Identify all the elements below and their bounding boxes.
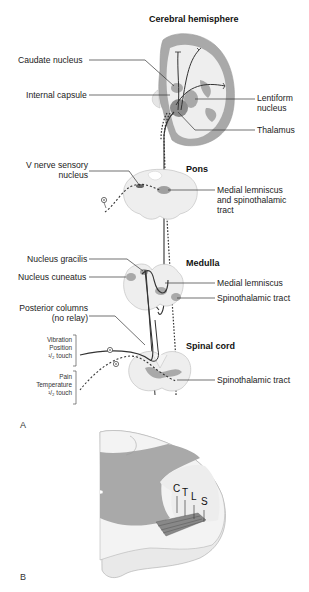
label-medial-lemniscus-and-spinothalamic: Medial lemniscus and spinothalamic tract xyxy=(217,185,286,215)
label-line: nucleus xyxy=(257,103,287,113)
modality-temperature: Temperature xyxy=(36,381,72,388)
label-line: Posterior columns xyxy=(19,303,88,313)
title-cerebral-hemisphere: Cerebral hemisphere xyxy=(149,14,239,24)
label-lentiform-nucleus: Lentiform nucleus xyxy=(257,93,293,113)
panel-label-b: B xyxy=(20,572,26,582)
label-line: nucleus xyxy=(58,170,88,180)
modality-group-dorsal-column: Vibration Position ¹/₂ touch xyxy=(24,336,72,360)
label-spinothalamic-tract-cord: Spinothalamic tract xyxy=(217,375,290,385)
modality-vibration: Vibration xyxy=(47,336,72,343)
segment-label-l: L xyxy=(191,491,197,502)
label-line: Lentiform xyxy=(257,93,293,103)
modality-group-spinothalamic: Pain Temperature ¹/₂ touch xyxy=(14,373,72,397)
panel-label-a: A xyxy=(20,420,26,430)
modality-half-touch: ¹/₂ touch xyxy=(48,389,72,396)
label-line: and spinothalamic xyxy=(217,195,286,205)
modality-position: Position xyxy=(49,344,72,351)
label-v-nerve-sensory-nucleus: V nerve sensory nucleus xyxy=(24,160,88,180)
label-internal-capsule: Internal capsule xyxy=(26,90,87,100)
title-medulla: Medulla xyxy=(186,258,220,268)
label-posterior-columns: Posterior columns (no relay) xyxy=(10,303,88,323)
label-nucleus-cuneatus: Nucleus cuneatus xyxy=(18,272,86,282)
title-spinal-cord: Spinal cord xyxy=(186,341,235,351)
modality-pain: Pain xyxy=(59,373,72,380)
label-caudate-nucleus: Caudate nucleus xyxy=(18,55,83,65)
label-line: V nerve sensory xyxy=(26,160,88,170)
modality-half-touch: ¹/₂ touch xyxy=(48,352,72,359)
label-medial-lemniscus: Medial lemniscus xyxy=(217,278,283,288)
label-thalamus: Thalamus xyxy=(257,125,295,135)
segment-label-c: C xyxy=(173,483,180,494)
label-spinothalamic-tract-medulla: Spinothalamic tract xyxy=(217,293,290,303)
title-pons: Pons xyxy=(186,164,208,174)
segment-label-t: T xyxy=(182,487,188,498)
label-line: Medial lemniscus xyxy=(217,185,283,195)
modality-brackets xyxy=(73,335,76,404)
segment-label-s: S xyxy=(201,496,208,507)
pons-drawing xyxy=(101,169,197,219)
label-line: (no relay) xyxy=(52,313,88,323)
label-nucleus-gracilis: Nucleus gracilis xyxy=(27,254,87,264)
label-line: tract xyxy=(217,205,234,215)
